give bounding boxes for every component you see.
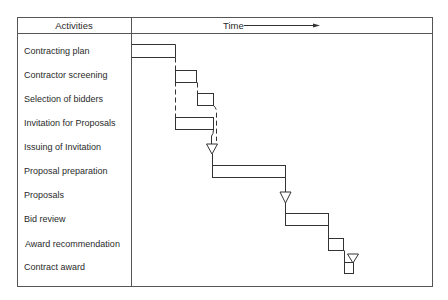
- bar-contract-award: [345, 263, 354, 274]
- activity-label: Proposal preparation: [24, 166, 108, 176]
- time-arrow-icon: [244, 24, 320, 28]
- bar-award-recommendation: [329, 239, 344, 251]
- bar-invitation-for-proposals: [176, 118, 214, 130]
- bar-selection-of-bidders: [198, 94, 214, 106]
- dependency-connectors: [176, 58, 345, 263]
- activity-label: Contracting plan: [24, 46, 90, 56]
- activities-header: Activities: [55, 20, 93, 31]
- activity-label: Selection of bidders: [24, 94, 104, 104]
- milestone-contract-award-icon: [348, 254, 359, 263]
- time-header: Time: [223, 20, 244, 31]
- activity-labels: Contracting plan Contractor screening Se…: [24, 46, 120, 272]
- milestone-issuing-invitation-icon: [207, 144, 218, 154]
- activity-label: Invitation for Proposals: [24, 118, 116, 128]
- activity-label: Proposals: [24, 190, 65, 200]
- activity-label: Contract award: [24, 262, 85, 272]
- bar-contracting-plan: [132, 45, 176, 58]
- bar-contractor-screening: [176, 71, 197, 83]
- activity-bars: [132, 45, 354, 274]
- activity-label: Bid review: [24, 214, 66, 224]
- activity-label: Award recommendation: [25, 239, 120, 249]
- activity-label: Issuing of Invitation: [24, 142, 101, 152]
- gantt-chart: Activities Time Contracting plan Contrac…: [0, 0, 448, 300]
- bar-proposal-preparation: [213, 166, 286, 178]
- activity-label: Contractor screening: [24, 70, 108, 80]
- milestones: [207, 144, 359, 263]
- milestone-proposals-icon: [280, 192, 291, 203]
- bar-bid-review: [286, 214, 329, 226]
